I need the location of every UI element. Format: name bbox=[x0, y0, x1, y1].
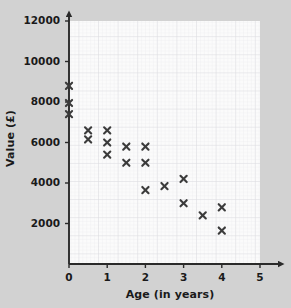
x-tick-label: 3 bbox=[174, 271, 194, 283]
x-tick-label: 2 bbox=[135, 271, 155, 283]
y-tick-label: 6000 bbox=[16, 136, 60, 148]
y-tick-label: 10000 bbox=[16, 55, 60, 67]
plot-area-background bbox=[69, 21, 260, 264]
x-tick-label: 4 bbox=[212, 271, 232, 283]
x-tick-label: 1 bbox=[97, 271, 117, 283]
y-tick-label: 2000 bbox=[16, 217, 60, 229]
y-tick-label: 4000 bbox=[16, 176, 60, 188]
y-tick-label: 12000 bbox=[16, 14, 60, 26]
x-tick-label: 5 bbox=[250, 271, 270, 283]
x-tick-label: 0 bbox=[59, 271, 79, 283]
scatter-chart: 20004000600080001000012000 012345 Value … bbox=[0, 0, 291, 308]
y-axis-title: Value (£) bbox=[4, 107, 17, 171]
y-tick-label: 8000 bbox=[16, 95, 60, 107]
x-axis-title: Age (in years) bbox=[80, 288, 260, 301]
chart-canvas bbox=[0, 0, 291, 308]
